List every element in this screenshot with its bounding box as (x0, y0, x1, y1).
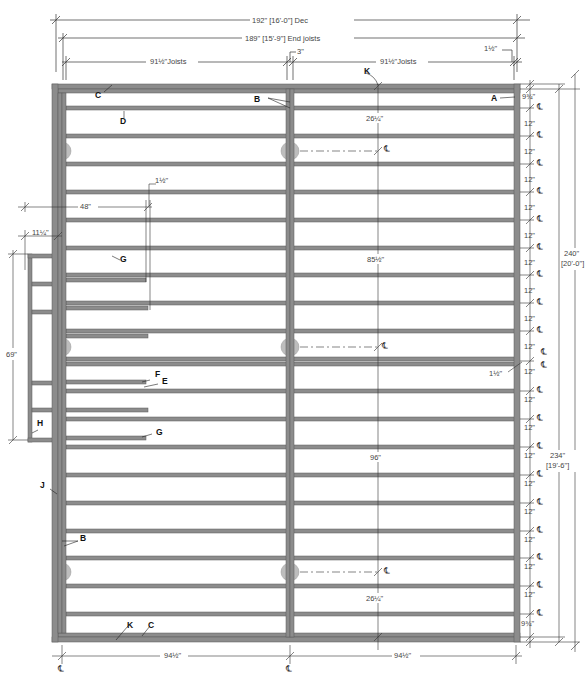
svg-text:℄: ℄ (536, 102, 543, 112)
svg-text:℄: ℄ (540, 347, 547, 357)
dim-right-joists: 91½"Joists (380, 57, 417, 66)
svg-text:℄: ℄ (536, 158, 543, 168)
callout-c-top: C (95, 90, 101, 100)
svg-text:℄: ℄ (536, 441, 543, 451)
dim-bottom-left-half: 94½" (164, 651, 182, 660)
svg-text:12": 12" (524, 507, 535, 516)
dim-left-joists: 91½"Joists (150, 57, 187, 66)
dim-overall-outer-ft: [20'-0"] (561, 259, 584, 268)
callout-j: J (40, 480, 45, 490)
callout-h: H (37, 418, 43, 428)
dim-bottom-pier: 26¼" (366, 594, 384, 603)
svg-text:℄: ℄ (536, 214, 543, 224)
callout-e: E (162, 376, 168, 386)
dim-mid-lower: 96" (370, 453, 381, 462)
svg-text:12": 12" (524, 451, 535, 460)
svg-text:12": 12" (524, 175, 535, 184)
svg-text:12": 12" (524, 314, 535, 323)
svg-text:℄: ℄ (536, 269, 543, 279)
svg-text:℄: ℄ (536, 497, 543, 507)
right-centerline-marks: ℄ ℄ ℄ ℄ ℄ ℄ ℄ ℄ ℄ ℄ ℄ ℄ ℄ ℄ ℄ ℄ ℄ ℄ ℄ ℄ (536, 102, 547, 618)
svg-text:12": 12" (524, 535, 535, 544)
svg-text:12": 12" (524, 367, 535, 376)
svg-text:12": 12" (524, 590, 535, 599)
dim-bottom-right-half: 94½" (394, 651, 412, 660)
svg-text:12": 12" (524, 342, 535, 351)
callout-f: F (155, 369, 160, 379)
svg-text:12": 12" (524, 119, 535, 128)
dim-center-offset: 1½" (489, 369, 502, 378)
callout-b-lower: B (80, 533, 86, 543)
callout-labels: C B D K A G F E G H J B K C (37, 66, 497, 630)
dim-top-pier: 26¼" (366, 114, 384, 123)
svg-text:12": 12" (524, 423, 535, 432)
floor-framing-plan: 192" [16'-0"] Dec 189" [15'-9"] End jois… (0, 0, 588, 674)
svg-text:℄: ℄ (536, 580, 543, 590)
callout-leaders (32, 73, 515, 640)
dim-overall-outer: 240" (564, 249, 580, 258)
dim-mid-upper: 85½" (367, 255, 385, 264)
callout-d: D (120, 116, 126, 126)
dim-opening-offset: 11¼" (32, 228, 49, 237)
dim-overall-inner-ft: [19'-6"] (546, 461, 569, 470)
svg-text:℄: ℄ (536, 325, 543, 335)
dim-opening-width: 48" (80, 202, 91, 211)
svg-text:12": 12" (524, 231, 535, 240)
svg-text:12": 12" (524, 258, 535, 267)
dim-header-gap: 1½" (155, 176, 168, 185)
centerline-top: ℄ (383, 144, 390, 154)
svg-text:12": 12" (524, 147, 535, 156)
callout-g-upper: G (120, 254, 127, 264)
centerline-bottom-left: ℄ (57, 664, 64, 674)
dim-landing-height: 69" (6, 350, 17, 359)
callout-k-bottom: K (127, 620, 134, 630)
callout-b-top: B (254, 94, 260, 104)
centerline-bottom-center: ℄ (285, 664, 292, 674)
svg-text:℄: ℄ (536, 186, 543, 196)
callout-k-top: K (364, 66, 371, 76)
callout-g-lower: G (156, 427, 163, 437)
svg-text:℄: ℄ (536, 413, 543, 423)
dim-rim-offset: 1½" (484, 44, 497, 53)
dim-beam-gap: 3" (297, 47, 304, 56)
dim-overall-deck: 192" [16'-0"] Dec (252, 16, 308, 25)
svg-text:9¾": 9¾" (522, 92, 535, 101)
callout-c-bottom: C (148, 620, 154, 630)
svg-text:℄: ℄ (536, 297, 543, 307)
centerline-mid: ℄ (381, 341, 388, 351)
svg-text:12": 12" (524, 395, 535, 404)
svg-text:12": 12" (524, 562, 535, 571)
svg-text:℄: ℄ (540, 360, 547, 370)
dim-overall-inner: 234" (550, 451, 566, 460)
svg-text:12": 12" (524, 286, 535, 295)
centerline-bottom: ℄ (383, 566, 390, 576)
callout-a: A (491, 93, 497, 103)
svg-text:℄: ℄ (536, 385, 543, 395)
svg-text:12": 12" (524, 479, 535, 488)
svg-text:℄: ℄ (536, 242, 543, 252)
svg-text:12": 12" (524, 203, 535, 212)
bottom-dimensions (52, 645, 522, 664)
svg-text:℄: ℄ (536, 552, 543, 562)
svg-text:9¾": 9¾" (521, 619, 534, 628)
dim-end-joists: 189" [15'-9"] End joists (245, 34, 320, 43)
right-spacing-labels: 9¾" 12" 12" 12" 12" 12" 12" 12" 12" 12" … (521, 92, 535, 628)
svg-text:℄: ℄ (536, 608, 543, 618)
svg-text:℄: ℄ (536, 525, 543, 535)
svg-text:℄: ℄ (536, 469, 543, 479)
svg-text:℄: ℄ (536, 130, 543, 140)
